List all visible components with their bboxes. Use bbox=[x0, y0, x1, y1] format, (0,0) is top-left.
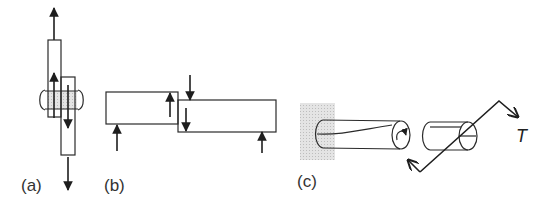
panel-a bbox=[40, 8, 84, 190]
rivet-head-right bbox=[78, 90, 83, 110]
shear-diagram bbox=[0, 0, 557, 205]
rivet-shank bbox=[48, 91, 77, 109]
panel-c bbox=[300, 101, 518, 172]
torque-arrow-return bbox=[408, 160, 420, 172]
panel-label-c: (c) bbox=[297, 172, 317, 192]
fixed-wall bbox=[300, 103, 335, 160]
rotation-icon bbox=[397, 131, 406, 140]
panel-b bbox=[106, 75, 276, 153]
panel-label-b: (b) bbox=[104, 176, 125, 196]
rivet-head-left bbox=[40, 90, 45, 110]
shaft-end-face bbox=[392, 121, 410, 149]
element-back-end bbox=[423, 122, 431, 150]
right-block bbox=[178, 100, 276, 132]
torque-label: T bbox=[516, 126, 527, 147]
left-block bbox=[106, 92, 178, 124]
panel-label-a: (a) bbox=[21, 176, 42, 196]
